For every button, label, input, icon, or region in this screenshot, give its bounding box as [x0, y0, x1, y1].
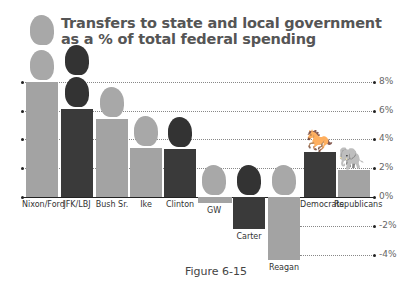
y-tick-label: 4% [379, 133, 393, 143]
president-head-icon [100, 87, 124, 117]
x-label: JFK/LBJ [57, 200, 97, 209]
x-label: GW [194, 206, 234, 215]
right-tick-dot [373, 225, 376, 228]
figure-caption: Figure 6-15 [185, 265, 247, 278]
y-tick-label: 6% [379, 105, 393, 115]
president-head-icon [65, 45, 89, 75]
bar-carter [233, 197, 265, 229]
left-tick-dot [21, 196, 24, 199]
bar-jfk-lbj [61, 109, 93, 197]
x-label: Republicans [334, 200, 374, 209]
gridline [300, 226, 374, 227]
bar-bush-sr- [96, 119, 128, 197]
gridline [300, 255, 374, 256]
bar-reagan [268, 197, 300, 260]
elephant-icon: 🐘 [338, 146, 365, 171]
president-head-icon [65, 77, 89, 107]
y-tick-label: -2% [379, 220, 397, 230]
left-tick-dot [21, 167, 24, 170]
right-tick-dot [373, 138, 376, 141]
bar-clinton [164, 149, 196, 197]
title-line-2: as a % of total federal spending [61, 31, 382, 47]
left-tick-dot [21, 138, 24, 141]
right-tick-dot [373, 167, 376, 170]
bar-republicans [338, 170, 370, 197]
right-tick-dot [373, 196, 376, 199]
president-head-icon [30, 15, 54, 45]
y-tick-label: 2% [379, 162, 393, 172]
president-head-icon [237, 165, 261, 195]
right-tick-dot [373, 81, 376, 84]
president-head-icon [272, 165, 296, 195]
x-label: Carter [229, 232, 269, 241]
title-line-1: Transfers to state and local government [61, 15, 382, 31]
x-label: Nixon/Ford [22, 200, 62, 209]
y-tick-label: 8% [379, 76, 393, 86]
bar-nixon-ford [26, 82, 58, 197]
bar-gw [198, 197, 232, 203]
president-head-icon [30, 50, 54, 80]
bar-democrats [304, 152, 336, 197]
bar-ike [130, 148, 162, 197]
right-tick-dot [373, 110, 376, 113]
right-tick-dot [373, 254, 376, 257]
x-label: Reagan [264, 263, 304, 272]
chart-title: Transfers to state and local government … [61, 15, 382, 47]
donkey-icon: 🐎 [306, 128, 333, 153]
president-head-icon [168, 117, 192, 147]
president-head-icon [134, 116, 158, 146]
president-head-icon [202, 165, 226, 195]
left-tick-dot [21, 81, 24, 84]
y-tick-label: -4% [379, 249, 397, 259]
left-tick-dot [21, 110, 24, 113]
